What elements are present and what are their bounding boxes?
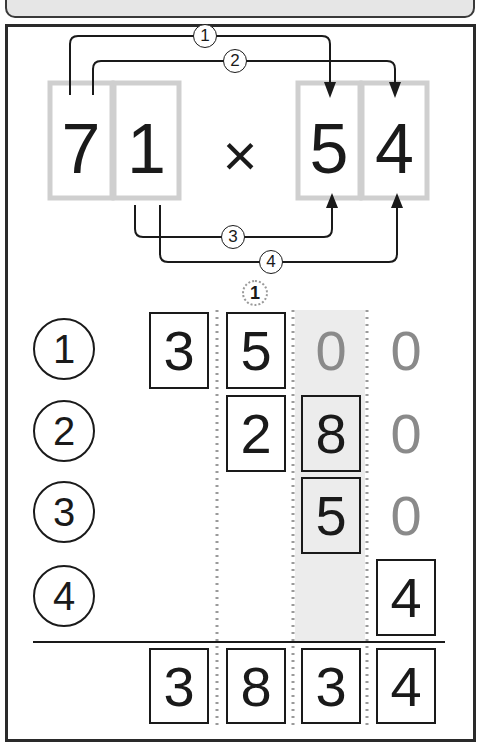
row4-cell-ones: 4 bbox=[376, 559, 436, 636]
row-label-3: 3 bbox=[33, 481, 95, 543]
row-label-1: 1 bbox=[33, 318, 95, 380]
multiply-operator: × bbox=[205, 110, 275, 200]
arrow-step-2-label: 2 bbox=[223, 49, 247, 73]
row2-cell-tens: 8 bbox=[301, 395, 361, 472]
arrow-step-1-label: 1 bbox=[193, 24, 217, 48]
row1-cell-thousands: 3 bbox=[149, 312, 209, 389]
arrow-step-4-label: 4 bbox=[259, 250, 283, 274]
result-ones: 4 bbox=[376, 648, 436, 724]
carry-indicator: 1 bbox=[242, 280, 268, 306]
row1-cell-hundreds: 5 bbox=[226, 312, 286, 389]
result-tens: 3 bbox=[301, 648, 361, 724]
result-hundreds: 8 bbox=[226, 648, 286, 724]
row-label-2: 2 bbox=[33, 400, 95, 462]
row3-cell-ones: 0 bbox=[376, 477, 436, 554]
multiplier-tens: 5 bbox=[298, 100, 360, 198]
multiplicand-tens: 7 bbox=[50, 100, 112, 198]
row1-cell-ones: 0 bbox=[376, 312, 436, 389]
row2-cell-hundreds: 2 bbox=[226, 395, 286, 472]
row3-cell-tens: 5 bbox=[301, 477, 361, 554]
row2-cell-ones: 0 bbox=[376, 395, 436, 472]
row1-cell-tens: 0 bbox=[301, 312, 361, 389]
arrow-step-3-label: 3 bbox=[221, 225, 245, 249]
result-thousands: 3 bbox=[149, 648, 209, 724]
multiplier-ones: 4 bbox=[362, 100, 427, 198]
row-label-4: 4 bbox=[33, 565, 95, 627]
multiplicand-ones: 1 bbox=[114, 100, 179, 198]
